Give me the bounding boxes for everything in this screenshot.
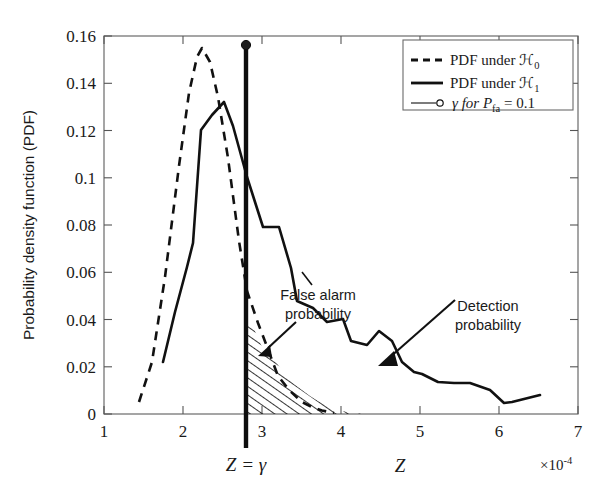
legend: PDF under ℋ0 PDF under ℋ1 γ for Pfa = 0.… (403, 40, 573, 114)
y-tick-label: 0.02 (66, 358, 96, 377)
x-axis-title: Z (395, 455, 406, 476)
x-tick-label: 3 (258, 422, 267, 441)
chart-svg: 1 2 3 4 5 6 7 0 0.02 0.04 0.06 0.08 0.1 … (0, 0, 609, 491)
y-tick-label: 0 (88, 405, 97, 424)
y-tick-label: 0.14 (66, 74, 96, 93)
x-tick-label: 2 (179, 422, 188, 441)
y-axis-title: Probability density function (PDF) (20, 110, 37, 340)
threshold-label: Z = γ (226, 454, 267, 475)
x-axis-multiplier: ×10-4 (540, 455, 573, 473)
y-tick-label: 0.1 (75, 169, 96, 188)
x-tick-label: 5 (416, 422, 425, 441)
y-tick-label: 0.12 (66, 122, 96, 141)
annotation-false-alarm-line2: probability (285, 306, 352, 322)
annotation-false-alarm-line1: False alarm (280, 287, 356, 303)
x-tick-label: 6 (495, 422, 504, 441)
y-tick-label: 0.06 (66, 263, 96, 282)
x-tick-label: 4 (337, 422, 346, 441)
x-tick-labels: 1 2 3 4 5 6 7 (100, 422, 583, 441)
annotation-detection-line1: Detection (457, 298, 518, 314)
y-tick-label: 0.04 (66, 311, 96, 330)
annotation-detection-line2: probability (455, 317, 522, 333)
y-tick-labels: 0 0.02 0.04 0.06 0.08 0.1 0.12 0.14 0.16 (66, 27, 96, 424)
x-tick-label: 1 (100, 422, 109, 441)
figure-container: 1 2 3 4 5 6 7 0 0.02 0.04 0.06 0.08 0.1 … (0, 0, 609, 491)
x-tick-label: 7 (574, 422, 583, 441)
y-tick-label: 0.16 (66, 27, 96, 46)
y-tick-label: 0.08 (66, 216, 96, 235)
